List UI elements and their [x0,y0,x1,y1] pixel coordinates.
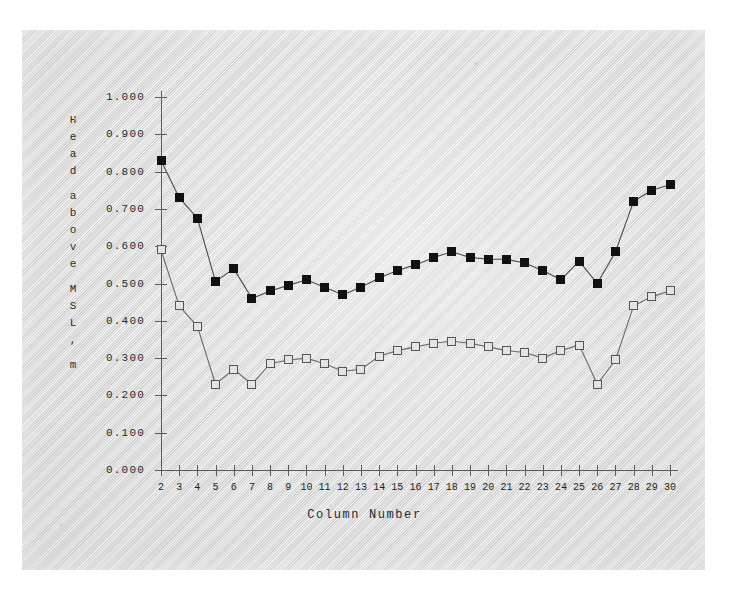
x-tick-mark [506,465,507,476]
x-tick-label: 14 [370,483,388,493]
data-point-marker [157,245,166,254]
y-tick-label: 0.600 [75,241,145,251]
data-point-marker [611,355,620,364]
data-point-marker [575,257,584,266]
data-point-marker [284,355,293,364]
data-point-marker [338,367,347,376]
chart-page: Head above MSL, m 1.0000.9000.8000.7000.… [0,0,729,598]
y-tick-label: 0.100 [75,428,145,438]
y-tick-mark [155,358,167,359]
x-tick-label: 2 [152,483,170,493]
y-tick-label: 0.500 [75,279,145,289]
x-tick-label: 18 [443,483,461,493]
y-tick-mark [155,321,167,322]
x-tick-mark [179,465,180,476]
data-point-marker [466,339,475,348]
x-tick-mark [579,465,580,476]
y-tick-label: 0.700 [75,204,145,214]
x-tick-mark [270,465,271,476]
data-point-marker [193,214,202,223]
x-tick-label: 29 [643,483,661,493]
x-tick-mark [343,465,344,476]
x-tick-mark [652,465,653,476]
data-point-marker [247,294,256,303]
data-point-marker [629,197,638,206]
data-point-marker [356,365,365,374]
y-tick-mark [155,134,167,135]
x-tick-label: 23 [534,483,552,493]
x-tick-label: 26 [588,483,606,493]
data-point-marker [484,342,493,351]
data-point-marker [575,341,584,350]
data-point-marker [193,322,202,331]
x-tick-label: 13 [352,483,370,493]
x-tick-mark [543,465,544,476]
data-point-marker [447,337,456,346]
data-point-marker [484,255,493,264]
data-point-marker [611,247,620,256]
y-tick-label: 0.300 [75,353,145,363]
y-axis-title-char: a [62,146,84,163]
x-tick-label: 8 [261,483,279,493]
x-tick-mark [470,465,471,476]
y-tick-label: 0.400 [75,316,145,326]
data-point-marker [520,348,529,357]
y-axis-title-char: H [62,112,84,129]
scan-speck [74,118,76,120]
data-point-marker [266,359,275,368]
data-point-marker [466,253,475,262]
x-tick-label: 19 [461,483,479,493]
y-tick-mark [155,172,167,173]
data-point-marker [211,380,220,389]
x-tick-label: 3 [170,483,188,493]
series-line-filled-square-series [161,160,670,298]
x-tick-label: 11 [316,483,334,493]
data-point-marker [229,264,238,273]
data-point-marker [375,352,384,361]
x-tick-mark [325,465,326,476]
scan-speck [60,524,62,526]
y-tick-label: 0.200 [75,390,145,400]
x-tick-mark [234,465,235,476]
x-tick-label: 30 [661,483,679,493]
data-point-marker [338,290,347,299]
x-tick-label: 4 [188,483,206,493]
y-tick-label: 0.900 [75,129,145,139]
x-tick-mark [397,465,398,476]
data-point-marker [629,301,638,310]
y-axis-title-char: o [62,222,84,239]
x-tick-label: 20 [479,483,497,493]
data-point-marker [556,346,565,355]
y-axis-title-char [62,180,84,188]
data-point-marker [157,156,166,165]
scan-speck [475,63,477,65]
x-tick-label: 10 [297,483,315,493]
data-point-marker [538,266,547,275]
y-tick-mark [155,395,167,396]
x-tick-mark [416,465,417,476]
data-point-marker [175,193,184,202]
data-point-marker [375,273,384,282]
y-axis-title-char: e [62,256,84,273]
y-axis-title-char: S [62,298,84,315]
x-tick-label: 12 [334,483,352,493]
x-tick-mark [670,465,671,476]
data-point-marker [302,354,311,363]
x-tick-label: 25 [570,483,588,493]
data-point-marker [502,255,511,264]
x-tick-mark [452,465,453,476]
x-tick-mark [597,465,598,476]
y-tick-mark [155,97,167,98]
x-tick-mark [488,465,489,476]
data-point-marker [666,286,675,295]
y-axis-title-char: , [62,332,84,349]
data-point-marker [647,186,656,195]
data-point-marker [647,292,656,301]
data-point-marker [502,346,511,355]
x-tick-mark [361,465,362,476]
x-tick-label: 17 [425,483,443,493]
data-point-marker [356,283,365,292]
x-tick-mark [434,465,435,476]
y-axis-title-char: a [62,188,84,205]
x-tick-label: 24 [552,483,570,493]
